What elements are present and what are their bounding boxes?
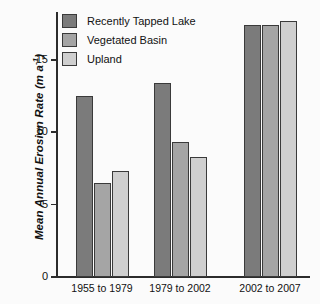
y-tick-label: 5 — [8, 198, 48, 210]
bar — [172, 142, 189, 277]
erosion-rate-bar-chart: Mean Annual Erosion Rate (m a-1) 051015 … — [0, 0, 320, 304]
y-tick-label: 0 — [8, 270, 48, 282]
y-tick-mark — [51, 131, 56, 133]
bar — [112, 171, 129, 277]
y-tick-label: 10 — [8, 125, 48, 137]
legend-label: Recently Tapped Lake — [87, 15, 196, 27]
legend-item: Upland — [62, 50, 196, 68]
legend-item: Recently Tapped Lake — [62, 12, 196, 30]
legend-label: Vegetated Basin — [87, 34, 167, 46]
legend-item: Vegetated Basin — [62, 31, 196, 49]
bar — [154, 83, 171, 277]
bar — [190, 157, 207, 277]
x-tick-label: 1979 to 2002 — [135, 282, 225, 294]
x-tick-label: 2002 to 2007 — [225, 282, 315, 294]
legend-swatch — [62, 33, 77, 47]
bar — [262, 25, 279, 277]
legend-label: Upland — [87, 53, 122, 65]
legend-swatch — [62, 52, 77, 66]
bar — [280, 21, 297, 277]
y-tick-mark — [51, 276, 56, 278]
bar — [94, 183, 111, 277]
x-tick-label: 1955 to 1979 — [57, 282, 147, 294]
y-tick-label: 15 — [8, 53, 48, 65]
legend-swatch — [62, 14, 77, 28]
chart-legend: Recently Tapped LakeVegetated BasinUplan… — [62, 12, 196, 69]
bar — [76, 96, 93, 277]
y-tick-mark — [51, 204, 56, 206]
y-axis-title-main: Mean Annual Erosion Rate (m a — [33, 65, 45, 240]
bar-group — [244, 12, 297, 277]
bar — [244, 25, 261, 277]
y-tick-mark — [51, 59, 56, 61]
